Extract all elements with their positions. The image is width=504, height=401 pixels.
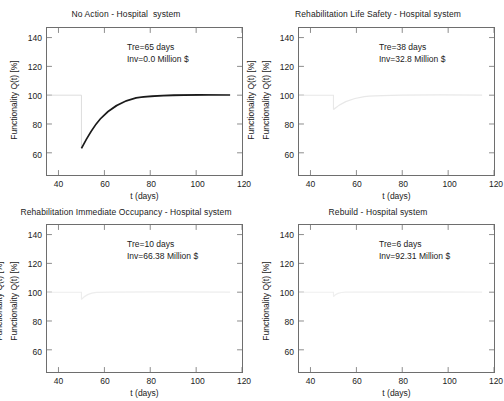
y-tick-140: 140: [28, 33, 42, 42]
x-tick-60: 60: [352, 180, 361, 189]
y-tick-80: 80: [285, 121, 294, 130]
y-tick-60: 60: [33, 150, 42, 159]
chart-panel-rehabilitation-immediate-occupancy: Rehabilitation Immediate Occupancy - Hos…: [0, 200, 252, 401]
y-tick-100: 100: [280, 289, 294, 298]
y-tick-60: 60: [285, 347, 294, 356]
annotation-recovery-time: Tre=10 days: [127, 239, 198, 251]
series-line: [299, 292, 333, 296]
annotation-recovery-time: Tre=6 days: [379, 239, 450, 251]
y-tick-140: 140: [280, 230, 294, 239]
y-tick-80: 80: [33, 318, 42, 327]
x-tick-120: 120: [489, 180, 503, 189]
x-axis-label: t (days): [299, 388, 494, 398]
x-tick-120: 120: [237, 180, 251, 189]
x-tick-100: 100: [191, 377, 205, 386]
chart-panel-no-action: No Action - Hospital system Functionalit…: [0, 0, 252, 200]
recovery-curve: [333, 95, 482, 110]
x-tick-60: 60: [100, 180, 109, 189]
x-tick-80: 80: [147, 180, 156, 189]
x-tick-60: 60: [100, 377, 109, 386]
x-tick-80: 80: [399, 180, 408, 189]
annotation-recovery-time: Tre=65 days: [127, 42, 189, 54]
x-tick-80: 80: [399, 377, 408, 386]
y-axis-label-text: Functionality Q(t) [%]: [261, 261, 271, 340]
x-tick-120: 120: [489, 377, 503, 386]
y-axis-label-text: Functionality Q(t) [%]: [261, 60, 271, 139]
chart-title: Rehabilitation Life Safety - Hospital sy…: [252, 9, 504, 19]
chart-title: No Action - Hospital system: [0, 9, 252, 19]
y-tick-120: 120: [280, 63, 294, 72]
y-tick-120: 120: [280, 260, 294, 269]
series-line: [47, 292, 81, 299]
y-axis-label: Functionality Q(t) [%]: [9, 21, 19, 100]
y-axis-label-right-text: Functionality Q(t) [%]: [0, 261, 4, 340]
y-tick-100: 100: [280, 92, 294, 101]
y-tick-140: 140: [28, 230, 42, 239]
annotation-investment: Inv=66.38 Million $: [127, 251, 198, 263]
chart-annotation: Tre=38 days Inv=32.8 Million $: [379, 42, 445, 65]
y-axis-label-right-text: Functionality Q(t) [%]: [246, 60, 256, 139]
y-tick-120: 120: [28, 260, 42, 269]
x-tick-60: 60: [352, 377, 361, 386]
x-tick-40: 40: [306, 180, 315, 189]
y-axis-label-text: Functionality Q(t) [%]: [9, 261, 19, 340]
x-tick-40: 40: [54, 377, 63, 386]
x-tick-120: 120: [237, 377, 251, 386]
x-tick-100: 100: [443, 377, 457, 386]
figure-grid: No Action - Hospital system Functionalit…: [0, 0, 504, 401]
x-axis-label: t (days): [47, 388, 242, 398]
chart-annotation: Tre=65 days Inv=0.0 Million $: [127, 42, 189, 65]
y-tick-60: 60: [33, 347, 42, 356]
plot-area: 60 80 100 120 140 40 60 80 100 120 t (da…: [46, 224, 243, 373]
chart-annotation: Tre=6 days Inv=92.31 Million $: [379, 239, 450, 262]
chart-title: Rebuild - Hospital system: [252, 207, 504, 217]
annotation-investment: Inv=92.31 Million $: [379, 251, 450, 263]
y-axis-label-right-neighbor: Functionality Q(t) [%]: [0, 221, 4, 300]
y-axis-label-right-neighbor: Functionality Q(t) [%]: [246, 21, 256, 100]
x-tick-40: 40: [306, 377, 315, 386]
y-tick-60: 60: [285, 150, 294, 159]
recovery-curve: [333, 292, 482, 297]
recovery-curve: [81, 292, 230, 299]
chart-panel-rehabilitation-life-safety: Rehabilitation Life Safety - Hospital sy…: [252, 0, 504, 200]
chart-title: Rehabilitation Immediate Occupancy - Hos…: [0, 207, 252, 217]
annotation-investment: Inv=0.0 Million $: [127, 54, 189, 66]
series-line: [299, 95, 333, 109]
x-tick-40: 40: [54, 180, 63, 189]
recovery-curve: [81, 95, 230, 149]
chart-annotation: Tre=10 days Inv=66.38 Million $: [127, 239, 198, 262]
x-tick-80: 80: [147, 377, 156, 386]
y-tick-100: 100: [28, 289, 42, 298]
y-axis-label-text: Functionality Q(t) [%]: [9, 60, 19, 139]
x-tick-100: 100: [443, 180, 457, 189]
y-axis-label: Functionality Q(t) [%]: [9, 221, 19, 300]
annotation-recovery-time: Tre=38 days: [379, 42, 445, 54]
series-line: [47, 95, 81, 148]
y-axis-label: Functionality Q(t) [%]: [261, 21, 271, 100]
x-tick-100: 100: [191, 180, 205, 189]
y-axis-label: Functionality Q(t) [%]: [261, 221, 271, 300]
plot-area: 60 80 100 120 140 40 60 80 100 120 t (da…: [298, 224, 495, 373]
plot-area: 60 80 100 120 140 40 60 80 100 120 t (da…: [298, 27, 495, 176]
annotation-investment: Inv=32.8 Million $: [379, 54, 445, 66]
y-tick-140: 140: [280, 33, 294, 42]
y-tick-80: 80: [33, 121, 42, 130]
y-tick-100: 100: [28, 92, 42, 101]
y-tick-80: 80: [285, 318, 294, 327]
y-tick-120: 120: [28, 63, 42, 72]
plot-area: 60 80 100 120 140 40 60 80 100 120 t (da…: [46, 27, 243, 176]
chart-panel-rebuild: Rebuild - Hospital system Functionality …: [252, 200, 504, 401]
